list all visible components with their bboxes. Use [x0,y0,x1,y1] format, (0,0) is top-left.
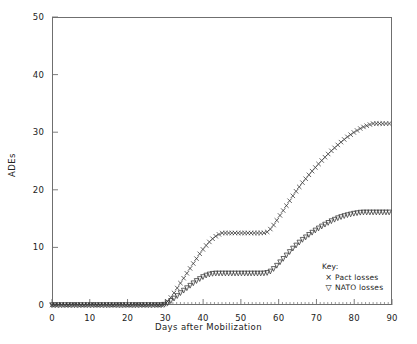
y-tick-label: 40 [18,70,44,80]
legend-entry-pact-losses: × Pact losses [322,273,383,283]
x-axis-title: Days after Mobilization [0,322,417,332]
legend-label-pact-losses: Pact losses [335,273,378,283]
legend-label-nato-losses: NATO losses [335,283,383,293]
legend-marker-triangle-down-icon: ▽ [322,284,335,292]
y-tick-label: 20 [18,185,44,195]
chart-container: 01020304050 0102030405060708090 Days aft… [0,0,417,344]
y-axis-title: ADEs [7,145,17,185]
chart-legend: Key: × Pact losses ▽ NATO losses [322,262,383,293]
y-tick-label: 30 [18,127,44,137]
legend-marker-cross-icon: × [322,274,335,282]
y-tick-label: 0 [18,300,44,310]
y-tick-label: 10 [18,242,44,252]
y-tick-label: 50 [18,12,44,22]
legend-entry-nato-losses: ▽ NATO losses [322,283,383,293]
legend-title: Key: [322,262,383,272]
